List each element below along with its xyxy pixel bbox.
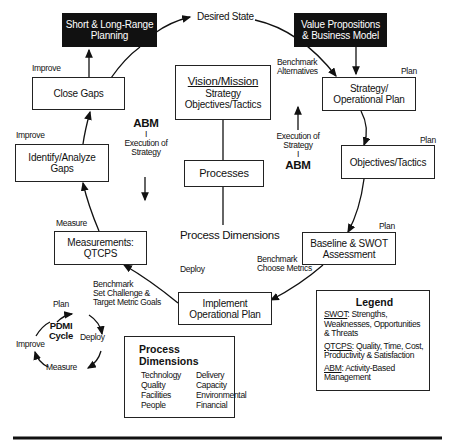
dimension-item: Capacity [196, 380, 256, 390]
dimension-item: Financial [196, 400, 256, 410]
deploy-label: Deploy [180, 265, 205, 274]
measurements-node: Measurements: QTCPS [54, 231, 147, 265]
dimension-item: People [141, 400, 196, 410]
node-line: Identify/Analyze [28, 152, 95, 163]
vision-title: Vision/Mission [188, 75, 259, 88]
benchmark-set-challenge-label: Benchmark Set Challenge & Target Metric … [93, 280, 161, 307]
legend-item-qtcps: QTCPS: Quality, Time, Cost, Productivity… [324, 342, 425, 361]
abm-right-label: Execution of Strategy I ABM [275, 132, 321, 172]
node-line: Value Propositions [301, 19, 380, 30]
node-line: & Business Model [302, 30, 379, 41]
dimension-item: Facilities [141, 390, 196, 400]
benchmark-alternatives-label: Benchmark Alternatives [277, 58, 318, 75]
legend-item-abm: ABM: Activity-Based Management [324, 364, 425, 383]
plan-label: Plan [420, 136, 436, 145]
node-line: Short & Long-Range [66, 19, 154, 30]
label-line: Cycle [48, 331, 74, 341]
dimension-item: Quality [141, 380, 196, 390]
abm-left-label: ABM I Execution of Strategy [124, 117, 168, 157]
process-dimensions-label: Process Dimensions [180, 229, 279, 241]
vision-mission-node: Vision/Mission Strategy Objectives/Tacti… [175, 65, 271, 120]
short-long-range-planning-node: Short & Long-Range Planning [62, 13, 157, 47]
plan-label: Plan [379, 222, 395, 231]
objectives-tactics-node: Objectives/Tactics [341, 145, 435, 179]
baseline-swot-node: Baseline & SWOT Assessment [302, 232, 396, 265]
legend-title: Legend [324, 296, 425, 308]
node-line: Gaps [50, 163, 73, 174]
legend-abbr: QTCPS [324, 341, 352, 351]
node-line: Implement [203, 298, 248, 309]
processes-node: Processes [184, 160, 264, 187]
label-line: Choose Metrics [257, 264, 312, 273]
process-dimensions-title: Process Dimensions [139, 343, 234, 367]
node-line: QTCPS [84, 248, 117, 259]
plan-label: Plan [401, 67, 417, 76]
label-line: Strategy [124, 148, 168, 157]
pdmi-measure-label: Measure [46, 363, 77, 372]
node-line: Baseline & SWOT [310, 238, 388, 249]
label-line: I [275, 150, 321, 159]
node-line: Strategy/ [350, 83, 388, 94]
dimension-item: Environmental [196, 390, 256, 400]
node-line: Planning [91, 30, 128, 41]
improve-label: Improve [32, 64, 61, 73]
strategy-operational-plan-node: Strategy/ Operational Plan [322, 77, 416, 111]
pdmi-deploy-label: Deploy [80, 333, 105, 342]
identify-analyze-gaps-node: Identify/Analyze Gaps [15, 144, 109, 182]
node-line: Strategy [205, 88, 241, 99]
node-line: Operational Plan [333, 94, 404, 105]
dimension-item: Delivery [196, 370, 256, 380]
label-line: Alternatives [277, 67, 318, 76]
close-gaps-node: Close Gaps [32, 77, 125, 110]
measure-label: Measure [56, 219, 87, 228]
label-line: Target Metric Goals [93, 298, 161, 307]
implement-operational-plan-node: Implement Operational Plan [178, 292, 272, 325]
pdmi-plan-label: Plan [53, 300, 69, 309]
node-line: Operational Plan [189, 309, 260, 320]
desired-state-label: Desired State [197, 12, 254, 21]
legend-box: Legend SWOT: Strengths, Weaknesses, Oppo… [316, 290, 430, 391]
node-line: Objectives/Tactics [350, 157, 426, 168]
process-dimensions-list: Technology Delivery Quality Capacity Fac… [141, 370, 234, 410]
value-propositions-node: Value Propositions & Business Model [294, 13, 387, 47]
node-line: Close Gaps [53, 88, 103, 99]
legend-abbr: SWOT [324, 309, 347, 319]
legend-abbr: ABM [324, 363, 342, 373]
benchmark-choose-metrics-label: Benchmark Choose Metrics [257, 255, 312, 273]
legend-item-swot: SWOT: Strengths, Weaknesses, Opportuniti… [324, 310, 425, 339]
node-line: Assessment [323, 249, 375, 260]
pdmi-improve-label: Improve [16, 340, 45, 349]
pdmi-cycle-title: PDMI Cycle [48, 321, 74, 341]
process-dimensions-box: Process Dimensions Technology Delivery Q… [124, 336, 235, 418]
node-line: Processes [199, 168, 249, 179]
improve-label: Improve [16, 131, 45, 140]
abm-title: ABM [275, 159, 321, 172]
dimension-item: Technology [141, 370, 196, 380]
node-line: Objectives/Tactics [185, 99, 261, 110]
node-line: Measurements: [67, 237, 133, 248]
